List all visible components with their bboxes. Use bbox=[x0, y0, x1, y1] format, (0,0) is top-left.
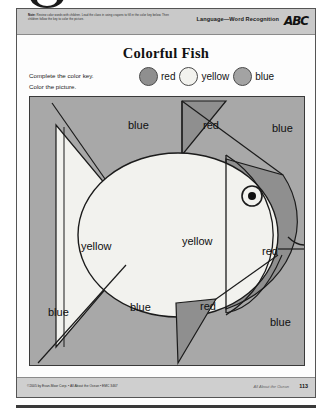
page-bottom-edge bbox=[16, 405, 316, 408]
fish-eye-pupil-icon bbox=[248, 192, 256, 200]
region-label: blue bbox=[130, 301, 151, 313]
color-key-item-yellow[interactable]: yellow bbox=[179, 67, 229, 86]
swatch-blue-circle[interactable] bbox=[233, 67, 252, 86]
subject-strand-label: Language—Word Recognition bbox=[196, 16, 279, 22]
instruction-line-2: Color the picture. bbox=[29, 81, 94, 92]
copyright-text: ©2005 by Evan-Moor Corp. • All About the… bbox=[27, 384, 118, 388]
region-label: blue bbox=[270, 316, 291, 328]
region-label: blue bbox=[48, 306, 69, 318]
region-label: yellow bbox=[81, 240, 112, 252]
scan-artifact-glyph bbox=[30, 0, 64, 8]
worksheet-sheet: Note: Review color words with children. … bbox=[16, 8, 316, 398]
coloring-picture[interactable]: blue red blue yellow yellow red blue blu… bbox=[29, 96, 305, 366]
swatch-yellow-circle[interactable] bbox=[179, 67, 198, 86]
color-key-label-red: red bbox=[161, 71, 175, 82]
region-body-yellow[interactable] bbox=[78, 153, 278, 317]
color-key-label-yellow: yellow bbox=[201, 71, 229, 82]
color-key: red yellow blue bbox=[139, 67, 274, 86]
region-label: blue bbox=[128, 119, 149, 131]
swatch-red-circle[interactable] bbox=[139, 67, 158, 86]
note-text: Review color words with children. Lead t… bbox=[28, 13, 169, 21]
page-title: Colorful Fish bbox=[17, 45, 315, 62]
region-label: red bbox=[203, 119, 219, 131]
fish-drawing: blue red blue yellow yellow red blue blu… bbox=[30, 97, 304, 365]
teacher-note: Note: Review color words with children. … bbox=[28, 13, 170, 22]
page-number: 113 bbox=[299, 383, 308, 389]
worksheet-page: Note: Review color words with children. … bbox=[0, 0, 332, 411]
color-key-label-blue: blue bbox=[255, 71, 274, 82]
instructions: Complete the color key. Color the pictur… bbox=[29, 70, 94, 93]
instruction-line-1: Complete the color key. bbox=[29, 70, 94, 81]
region-label: red bbox=[262, 245, 278, 257]
region-label: red bbox=[200, 300, 216, 312]
color-key-item-red[interactable]: red bbox=[139, 67, 175, 86]
region-label: yellow bbox=[182, 235, 213, 247]
header-band: Note: Review color words with children. … bbox=[17, 9, 315, 35]
footer-band: ©2005 by Evan-Moor Corp. • All About the… bbox=[17, 377, 315, 397]
region-label: blue bbox=[272, 122, 293, 134]
book-title-text: All About the Ocean bbox=[254, 384, 289, 389]
abc-logo-icon: ABC bbox=[281, 12, 311, 31]
color-key-item-blue[interactable]: blue bbox=[233, 67, 274, 86]
